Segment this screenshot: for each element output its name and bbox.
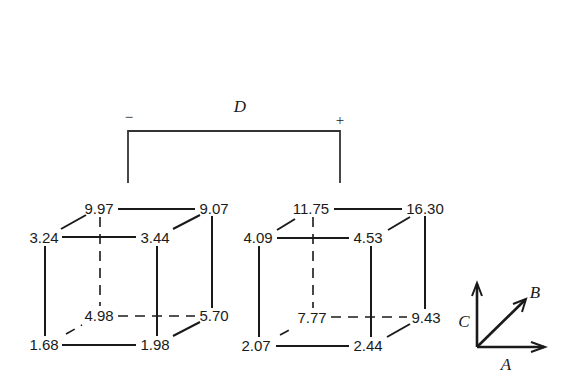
- vertex-value: 9.97: [84, 200, 113, 217]
- plus-sign: +: [336, 112, 344, 128]
- vertex-value: 2.07: [241, 337, 270, 354]
- edge: [173, 322, 200, 336]
- axis-b-arrow: [477, 300, 525, 347]
- vertex-value: 3.44: [140, 229, 169, 246]
- vertex-value: 2.44: [353, 337, 382, 354]
- vertex-value: 16.30: [406, 200, 444, 217]
- edge: [388, 217, 410, 230]
- hidden-edge: [66, 325, 82, 334]
- edge: [61, 215, 86, 229]
- edge: [173, 215, 200, 229]
- cube-d-plus: 11.75 16.30 4.09 4.53 7.77 9.43 2.07 2.4…: [241, 200, 443, 354]
- axis-a-label: A: [500, 355, 512, 374]
- edge: [387, 324, 410, 337]
- vertex-value: 1.68: [29, 336, 58, 353]
- bracket-line: [128, 131, 340, 183]
- edge: [277, 219, 295, 230]
- vertex-value: 5.70: [199, 307, 228, 324]
- vertex-value: 4.98: [84, 307, 113, 324]
- cube-d-minus: 9.97 9.07 3.24 3.44 4.98 5.70 1.68 1.98: [29, 200, 228, 353]
- vertex-value: 9.43: [411, 309, 440, 326]
- vertex-value: 1.98: [140, 336, 169, 353]
- axis-b-label: B: [530, 283, 541, 302]
- factor-d-bracket: D − +: [125, 97, 344, 183]
- factor-d-label: D: [233, 97, 247, 116]
- axes-legend: C B A: [458, 283, 545, 374]
- hidden-edge: [280, 327, 295, 335]
- vertex-value: 4.09: [243, 229, 272, 246]
- vertex-value: 7.77: [297, 309, 326, 326]
- minus-sign: −: [125, 109, 133, 125]
- vertex-value: 9.07: [199, 200, 228, 217]
- vertex-value: 3.24: [29, 229, 58, 246]
- vertex-value: 4.53: [353, 229, 382, 246]
- factorial-cube-diagram: D − + 9.97 9.07 3.24 3.44 4.98 5.70 1.68…: [0, 0, 561, 380]
- vertex-value: 11.75: [293, 200, 329, 217]
- axis-c-label: C: [458, 312, 470, 331]
